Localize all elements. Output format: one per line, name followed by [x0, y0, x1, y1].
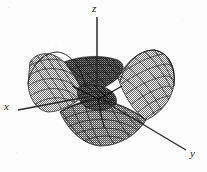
y-axis-label: y: [190, 148, 195, 159]
z-axis-label: z: [92, 3, 96, 14]
surface-plot-canvas: [0, 0, 207, 172]
surface-plot-figure: z x y: [0, 0, 207, 172]
x-axis-label: x: [4, 101, 9, 112]
